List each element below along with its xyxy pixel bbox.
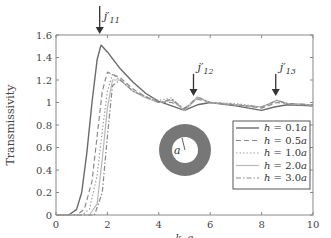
annotation-label: j′11 xyxy=(101,10,120,25)
arrow-head-icon xyxy=(96,27,104,34)
y-tick-label: 0.2 xyxy=(36,187,52,198)
y-tick-label: 0 xyxy=(46,210,52,221)
x-tick-label: 10 xyxy=(307,219,320,230)
x-tick-label: 2 xyxy=(104,219,110,230)
y-tick-label: 1.4 xyxy=(36,52,52,63)
y-axis-label: Transmissivity xyxy=(4,84,17,166)
annotation-label: j′12 xyxy=(194,61,213,76)
annotation-label: j′13 xyxy=(277,61,296,76)
x-tick-label: 6 xyxy=(207,219,213,230)
legend-entry: h = 1.0a xyxy=(264,147,307,158)
legend-entry: h = 3.0a xyxy=(264,172,307,183)
arrow-head-icon xyxy=(272,89,280,96)
x-tick-label: 8 xyxy=(258,219,264,230)
y-tick-label: 0.6 xyxy=(36,142,52,153)
y-tick-label: 0.4 xyxy=(36,165,52,176)
y-tick-label: 1.6 xyxy=(36,30,52,41)
transmissivity-chart: 024681000.20.40.60.811.21.41.6k0aTransmi… xyxy=(0,0,331,238)
x-tick-label: 4 xyxy=(156,219,162,230)
y-tick-label: 0.8 xyxy=(36,120,52,131)
arrow-head-icon xyxy=(189,89,197,96)
legend-entry: h = 0.1a xyxy=(264,122,307,133)
y-tick-label: 1.2 xyxy=(36,75,52,86)
inset-radius-label: a xyxy=(174,144,181,157)
legend-entry: h = 0.5a xyxy=(264,135,307,146)
x-tick-label: 0 xyxy=(53,219,59,230)
legend-entry: h = 2.0a xyxy=(264,160,307,171)
x-axis-label: k0a xyxy=(175,232,193,238)
y-tick-label: 1 xyxy=(46,97,52,108)
